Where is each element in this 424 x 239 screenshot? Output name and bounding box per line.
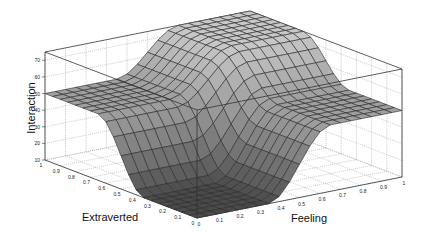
y-tick-label: 0.1	[174, 214, 181, 220]
z-tick-label: 20	[34, 140, 40, 146]
x-axis-label: Feeling	[291, 212, 327, 224]
y-tick-label: 0.4	[129, 197, 136, 203]
x-tick-label: 0.1	[216, 217, 223, 223]
x-tick-label: 0.2	[237, 213, 244, 219]
y-tick-label: 0.8	[68, 174, 75, 180]
x-tick-label: 1	[403, 180, 406, 186]
z-axis-label: Interaction	[25, 82, 37, 133]
y-axis-label: Extraverted	[82, 211, 138, 223]
y-tick-label: 0	[192, 220, 195, 226]
surface-plot: 1020304050607000.10.20.30.40.50.60.70.80…	[0, 0, 424, 239]
z-tick-label: 60	[34, 74, 40, 80]
x-tick-label: 0.8	[360, 188, 367, 194]
y-tick-label: 0.7	[83, 179, 90, 185]
x-tick-label: 0.7	[339, 192, 346, 198]
y-tick-label: 0.6	[98, 185, 105, 191]
x-tick-label: 0.6	[319, 196, 326, 202]
x-tick-label: 0.5	[298, 201, 305, 207]
z-tick-label: 70	[34, 57, 40, 63]
x-tick-label: 0	[198, 221, 201, 227]
y-tick-label: 0.3	[144, 203, 151, 209]
x-tick-label: 0.4	[278, 205, 285, 211]
y-tick-label: 0.2	[159, 208, 166, 214]
y-tick-label: 1	[40, 162, 43, 168]
x-tick-label: 0.9	[380, 184, 387, 190]
y-tick-label: 0.9	[53, 168, 60, 174]
x-tick-label: 0.3	[257, 209, 264, 215]
y-tick-label: 0.5	[114, 191, 121, 197]
